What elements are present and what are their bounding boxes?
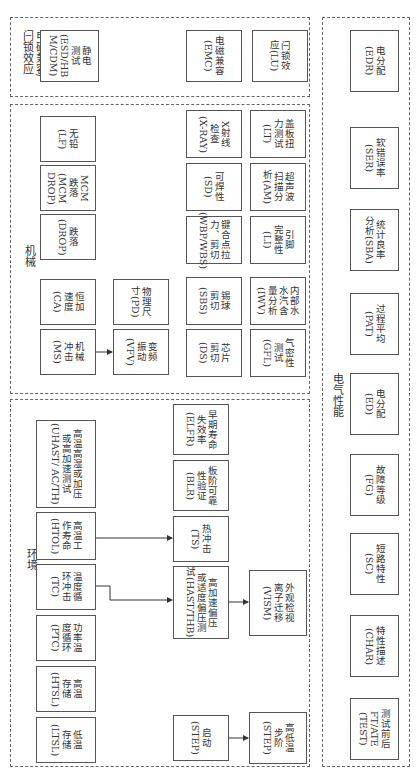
connector-arrows [0, 0, 418, 779]
